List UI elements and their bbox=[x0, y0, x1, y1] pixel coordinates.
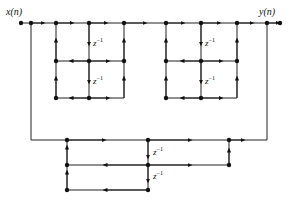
node-b3 bbox=[235, 21, 239, 25]
nodes bbox=[19, 21, 282, 192]
node-c8 bbox=[146, 188, 150, 192]
node-a7 bbox=[54, 96, 58, 100]
delay-label: z−1 bbox=[152, 170, 163, 181]
output-label: y(n) bbox=[258, 6, 276, 18]
node-in bbox=[19, 21, 23, 25]
delay-label: z−1 bbox=[204, 37, 215, 48]
node-b5 bbox=[199, 59, 203, 63]
input-label: x(n) bbox=[5, 6, 23, 18]
node-b1 bbox=[164, 21, 168, 25]
delay-label: z−1 bbox=[204, 75, 215, 86]
node-a5 bbox=[87, 59, 91, 63]
node-b4 bbox=[164, 59, 168, 63]
node-sum bbox=[265, 21, 269, 25]
node-a2 bbox=[87, 21, 91, 25]
node-c7 bbox=[65, 188, 69, 192]
delay-label: z−1 bbox=[92, 37, 103, 48]
signal-flow-graph: x(n) y(n) z−1 z−1 bbox=[0, 0, 292, 205]
node-a1 bbox=[54, 21, 58, 25]
delay-label: z−1 bbox=[152, 146, 163, 157]
delay-label: z−1 bbox=[92, 75, 103, 86]
node-b8 bbox=[199, 96, 203, 100]
node-c1 bbox=[65, 138, 69, 142]
node-b7 bbox=[164, 96, 168, 100]
node-a3 bbox=[122, 21, 126, 25]
node-split bbox=[29, 21, 33, 25]
node-a4 bbox=[54, 59, 58, 63]
node-b6 bbox=[235, 59, 239, 63]
node-c2 bbox=[146, 138, 150, 142]
node-c4 bbox=[65, 163, 69, 167]
node-b2 bbox=[199, 21, 203, 25]
node-c6 bbox=[227, 163, 231, 167]
node-c5 bbox=[146, 163, 150, 167]
node-c3 bbox=[227, 138, 231, 142]
node-a6 bbox=[122, 59, 126, 63]
node-out bbox=[278, 21, 282, 25]
node-a8 bbox=[87, 96, 91, 100]
